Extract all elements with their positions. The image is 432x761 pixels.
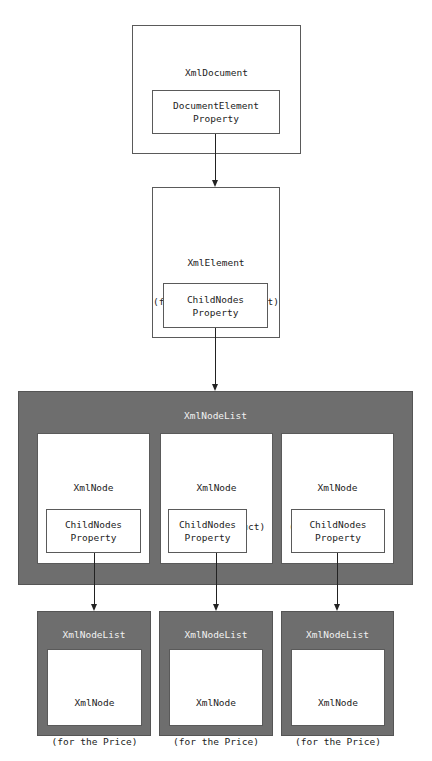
price-node-line2: (for the Price) bbox=[292, 735, 384, 748]
document-element-property-label: DocumentElement Property bbox=[153, 91, 279, 133]
price-node-box-1: XmlNode (for the Price) bbox=[47, 649, 142, 726]
arrowhead-icon bbox=[212, 180, 218, 187]
root-childnodes-property-line2: Property bbox=[193, 306, 239, 319]
price-nodelist-title-3: XmlNodeList bbox=[282, 628, 393, 641]
price-nodelist-title-1: XmlNodeList bbox=[38, 628, 150, 641]
xml-nodelist-title: XmlNodeList bbox=[19, 409, 412, 422]
arrowhead-icon bbox=[213, 604, 219, 611]
product-childnodes-property-box-1: ChildNodes Property bbox=[46, 509, 141, 553]
xml-document-title: XmlDocument bbox=[133, 66, 300, 79]
xml-element-title-line1: XmlElement bbox=[153, 256, 279, 269]
price-node-line2: (for the Price) bbox=[170, 735, 262, 748]
document-element-property-line1: DocumentElement bbox=[173, 99, 259, 112]
product-childnodes-property-line2: Property bbox=[71, 531, 117, 544]
product-node-title-line1: XmlNode bbox=[282, 481, 393, 494]
product-node-title-line1: XmlNode bbox=[161, 481, 272, 494]
price-nodelist-title-2: XmlNodeList bbox=[160, 628, 272, 641]
document-element-property-line2: Property bbox=[193, 112, 239, 125]
connector-product1-to-list bbox=[94, 553, 95, 604]
root-childnodes-property-label: ChildNodes Property bbox=[164, 284, 267, 327]
arrowhead-icon bbox=[212, 384, 218, 391]
product-node-title-line1: XmlNode bbox=[38, 481, 149, 494]
price-node-line1: XmlNode bbox=[48, 696, 141, 709]
price-node-label-3: XmlNode (for the Price) bbox=[292, 670, 384, 761]
product-childnodes-property-box-2: ChildNodes Property bbox=[168, 509, 247, 553]
product-childnodes-property-label-3: ChildNodes Property bbox=[292, 510, 384, 552]
arrowhead-icon bbox=[334, 604, 340, 611]
arrowhead-icon bbox=[91, 604, 97, 611]
product-childnodes-property-line2: Property bbox=[185, 531, 231, 544]
product-childnodes-property-line1: ChildNodes bbox=[65, 518, 122, 531]
product-childnodes-property-line2: Property bbox=[315, 531, 361, 544]
document-element-property-box: DocumentElement Property bbox=[152, 90, 280, 134]
product-childnodes-property-box-3: ChildNodes Property bbox=[291, 509, 385, 553]
product-childnodes-property-line1: ChildNodes bbox=[179, 518, 236, 531]
price-node-box-3: XmlNode (for the Price) bbox=[291, 649, 385, 726]
price-node-line2: (for the Price) bbox=[48, 735, 141, 748]
connector-product2-to-list bbox=[216, 553, 217, 604]
price-node-line1: XmlNode bbox=[292, 696, 384, 709]
root-childnodes-property-line1: ChildNodes bbox=[187, 293, 244, 306]
connector-element-to-nodelist bbox=[215, 328, 216, 384]
price-node-line1: XmlNode bbox=[170, 696, 262, 709]
price-node-label-2: XmlNode (for the Price) bbox=[170, 670, 262, 761]
connector-product3-to-list bbox=[337, 553, 338, 604]
connector-document-to-element bbox=[215, 134, 216, 180]
product-childnodes-property-line1: ChildNodes bbox=[309, 518, 366, 531]
product-childnodes-property-label-1: ChildNodes Property bbox=[47, 510, 140, 552]
price-node-box-2: XmlNode (for the Price) bbox=[169, 649, 263, 726]
product-childnodes-property-label-2: ChildNodes Property bbox=[169, 510, 246, 552]
root-childnodes-property-box: ChildNodes Property bbox=[163, 283, 268, 328]
price-node-label-1: XmlNode (for the Price) bbox=[48, 670, 141, 761]
